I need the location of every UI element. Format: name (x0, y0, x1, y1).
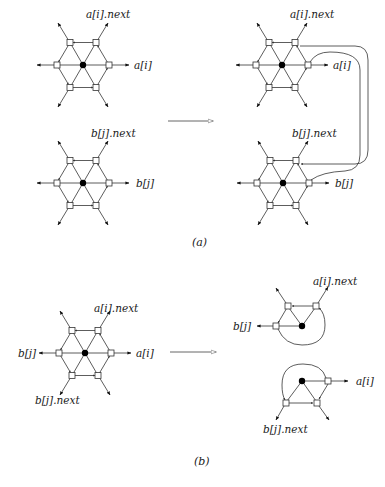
triangle-graph-b-upper (257, 287, 328, 345)
label-b-panel-b-next: b[j].next (35, 394, 80, 406)
triangle-graph-b-lower (276, 364, 348, 420)
label-b-self-right: b[j] (335, 177, 354, 189)
label-a-next: a[i].next (86, 8, 131, 20)
label-b-next-right: b[j].next (292, 127, 337, 139)
label-b-right-lower-next: b[j].next (263, 423, 308, 435)
diagram-canvas: a[i].next a[i] b[j].next b[j] a[i].next … (0, 0, 385, 487)
label-b-next: b[j].next (91, 127, 136, 139)
label-b-panel-a-self: a[i] (136, 347, 155, 359)
caption-b: (b) (194, 455, 210, 468)
panel-b: a[i].next a[i] b[j] b[j].next a[i].next … (18, 275, 375, 468)
label-a-next-right: a[i].next (290, 8, 335, 20)
panel-a: a[i].next a[i] b[j].next b[j] a[i].next … (37, 8, 368, 249)
figure: a[i].next a[i] b[j].next b[j] a[i].next … (0, 0, 385, 487)
hex-graph-b-left (39, 311, 131, 395)
label-b-right-upper-self: b[j] (233, 320, 252, 332)
label-a-self-right: a[i] (333, 59, 352, 71)
label-b-panel-a-next: a[i].next (94, 302, 139, 314)
caption-a: (a) (192, 236, 207, 249)
curve-a-self-to-b-self (310, 52, 360, 180)
hex-graph-a-right-top (236, 23, 328, 107)
label-b-right-lower-self: a[i] (356, 375, 375, 387)
hex-graph-a-right-bottom (237, 141, 329, 225)
label-a-self: a[i] (134, 59, 153, 71)
hex-graph-a-left-top (37, 23, 129, 107)
label-b-self: b[j] (136, 177, 155, 189)
hex-graph-a-left-bottom (37, 141, 129, 225)
label-b-right-upper-next: a[i].next (313, 275, 358, 287)
label-b-panel-b-self: b[j] (18, 347, 37, 359)
